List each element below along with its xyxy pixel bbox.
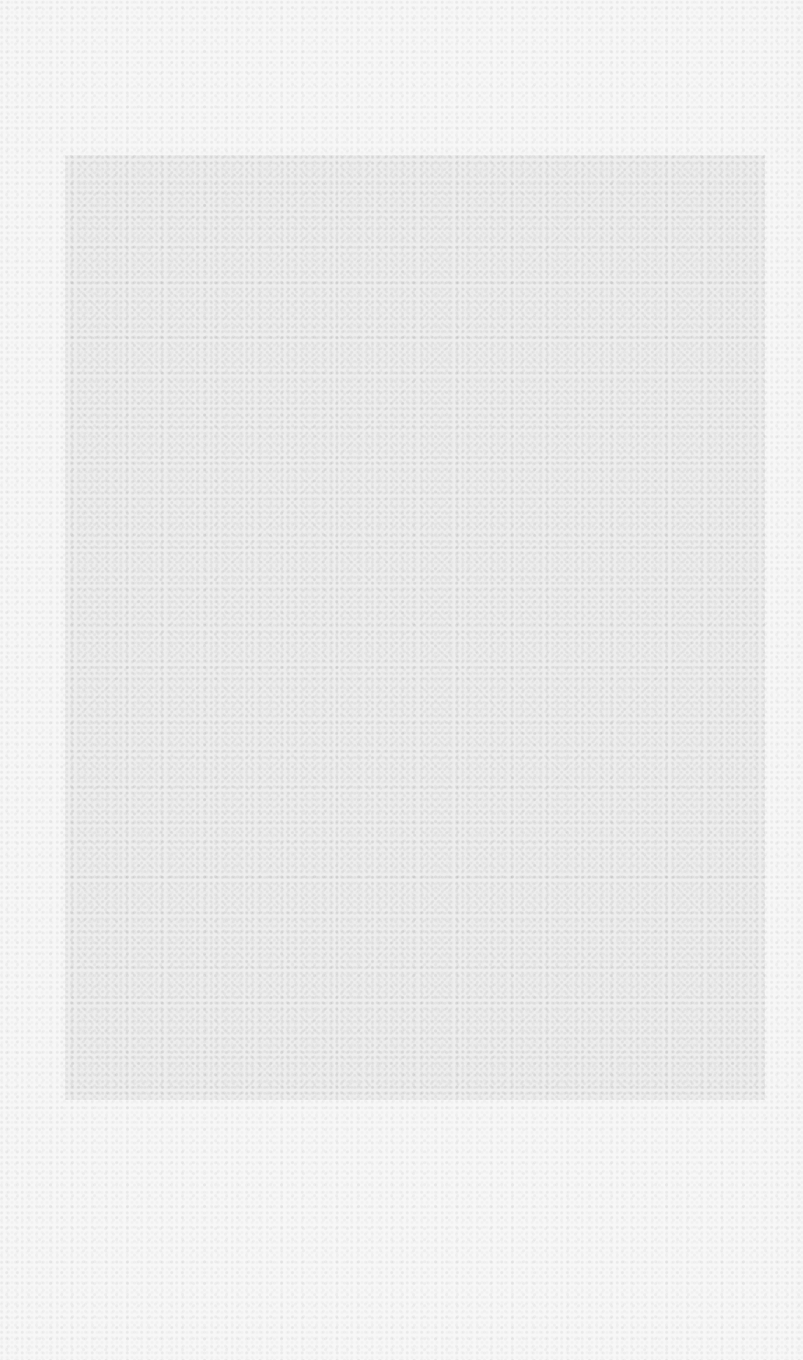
panel-texture: [65, 155, 765, 1100]
faint-rectangle-region: [65, 155, 765, 1100]
